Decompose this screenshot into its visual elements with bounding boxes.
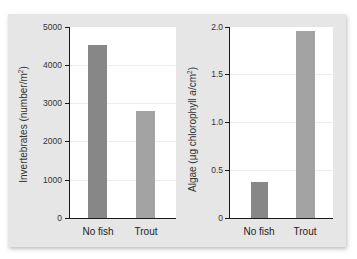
y-tick <box>65 141 70 142</box>
y-tick <box>65 65 70 66</box>
y-axis-label: Invertebrates (number/m2) <box>15 65 30 185</box>
y-axis <box>69 27 70 219</box>
invertebrates-plot-area <box>69 27 176 218</box>
bar-trout <box>136 111 155 218</box>
bar-no-fish <box>88 45 107 218</box>
x-category-label: Trout <box>275 226 335 238</box>
y-tick <box>225 27 230 28</box>
bar-trout <box>296 31 315 218</box>
x-category-label: Trout <box>116 226 176 238</box>
y-tick-label: 5000 <box>22 22 62 32</box>
bar-no-fish <box>251 182 268 218</box>
x-axis <box>225 218 333 219</box>
y-axis-label: Algae (μg chlorophyll a/cm2) <box>184 60 199 200</box>
gridline <box>69 141 176 142</box>
y-tick <box>65 27 70 28</box>
y-tick <box>225 170 230 171</box>
y-tick <box>225 122 230 123</box>
y-tick-label: 2.0 <box>183 22 223 32</box>
x-axis <box>65 218 176 219</box>
gridline <box>229 122 333 123</box>
gridline <box>69 180 176 181</box>
y-tick <box>65 103 70 104</box>
gridline <box>69 65 176 66</box>
gridline <box>229 170 333 171</box>
y-tick-label: 0 <box>22 213 62 223</box>
y-tick <box>225 74 230 75</box>
gridline <box>69 103 176 104</box>
y-tick-label: 0 <box>183 213 223 223</box>
y-tick <box>65 180 70 181</box>
gridline <box>229 74 333 75</box>
y-axis <box>229 27 230 219</box>
